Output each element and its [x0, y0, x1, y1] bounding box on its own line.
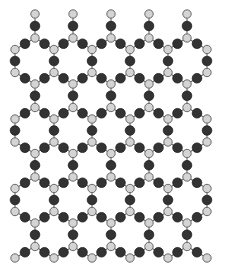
light-atom — [88, 138, 96, 146]
light-atom — [69, 242, 77, 250]
dark-atom — [163, 56, 173, 66]
dark-atom — [125, 56, 135, 66]
light-atom — [11, 254, 19, 262]
dark-atom — [135, 39, 145, 49]
light-atom — [164, 68, 172, 76]
dark-atom — [116, 73, 126, 83]
hexagonal-lattice-diagram — [0, 0, 225, 272]
dark-atom — [10, 195, 20, 205]
dark-atom — [173, 108, 183, 118]
dark-atom — [30, 91, 40, 101]
light-atom — [50, 184, 58, 192]
dark-atom — [116, 247, 126, 257]
light-atom — [50, 138, 58, 146]
light-atom — [50, 68, 58, 76]
light-atom — [203, 115, 211, 123]
dark-atom — [173, 247, 183, 257]
dark-atom — [135, 143, 145, 153]
light-atom — [145, 149, 153, 157]
light-atom — [203, 45, 211, 53]
dark-atom — [173, 143, 183, 153]
light-atom — [69, 219, 77, 227]
dark-atom — [135, 247, 145, 257]
light-atom — [164, 184, 172, 192]
light-atom — [145, 34, 153, 42]
dark-atom — [30, 21, 40, 31]
light-atom — [69, 34, 77, 42]
light-atom — [107, 80, 115, 88]
dark-atom — [154, 143, 164, 153]
light-atom — [11, 45, 19, 53]
light-atom — [126, 68, 134, 76]
dark-atom — [78, 178, 88, 188]
light-atom — [31, 149, 39, 157]
light-atom — [164, 254, 172, 262]
light-atom — [69, 10, 77, 18]
light-atom — [203, 138, 211, 146]
atom-layer — [10, 10, 212, 262]
light-atom — [126, 184, 134, 192]
dark-atom — [202, 195, 212, 205]
dark-atom — [97, 178, 107, 188]
dark-atom — [192, 39, 202, 49]
light-atom — [183, 10, 191, 18]
light-atom — [11, 68, 19, 76]
dark-atom — [97, 143, 107, 153]
light-atom — [31, 219, 39, 227]
dark-atom — [163, 126, 173, 136]
dark-atom — [154, 73, 164, 83]
dark-atom — [106, 91, 116, 101]
light-atom — [164, 138, 172, 146]
dark-atom — [116, 39, 126, 49]
dark-atom — [192, 178, 202, 188]
light-atom — [11, 138, 19, 146]
light-atom — [126, 115, 134, 123]
dark-atom — [182, 21, 192, 31]
light-atom — [107, 219, 115, 227]
light-atom — [145, 242, 153, 250]
light-atom — [164, 207, 172, 215]
light-atom — [69, 80, 77, 88]
dark-atom — [154, 247, 164, 257]
dark-atom — [106, 230, 116, 240]
dark-atom — [125, 126, 135, 136]
dark-atom — [20, 108, 30, 118]
dark-atom — [173, 212, 183, 222]
dark-atom — [173, 39, 183, 49]
dark-atom — [40, 73, 50, 83]
dark-atom — [20, 73, 30, 83]
light-atom — [11, 184, 19, 192]
light-atom — [88, 207, 96, 215]
light-atom — [50, 45, 58, 53]
light-atom — [88, 254, 96, 262]
light-atom — [203, 184, 211, 192]
dark-atom — [154, 178, 164, 188]
dark-atom — [192, 247, 202, 257]
dark-atom — [125, 195, 135, 205]
light-atom — [145, 103, 153, 111]
dark-atom — [182, 230, 192, 240]
light-atom — [145, 219, 153, 227]
light-atom — [107, 149, 115, 157]
dark-atom — [192, 143, 202, 153]
light-atom — [69, 149, 77, 157]
light-atom — [107, 34, 115, 42]
dark-atom — [59, 178, 69, 188]
light-atom — [183, 242, 191, 250]
dark-atom — [20, 247, 30, 257]
light-atom — [107, 103, 115, 111]
light-atom — [203, 254, 211, 262]
light-atom — [88, 45, 96, 53]
light-atom — [183, 80, 191, 88]
dark-atom — [182, 91, 192, 101]
dark-atom — [59, 39, 69, 49]
dark-atom — [78, 143, 88, 153]
light-atom — [183, 103, 191, 111]
light-atom — [50, 115, 58, 123]
dark-atom — [144, 230, 154, 240]
light-atom — [88, 115, 96, 123]
dark-atom — [20, 178, 30, 188]
light-atom — [31, 173, 39, 181]
dark-atom — [192, 73, 202, 83]
dark-atom — [30, 230, 40, 240]
